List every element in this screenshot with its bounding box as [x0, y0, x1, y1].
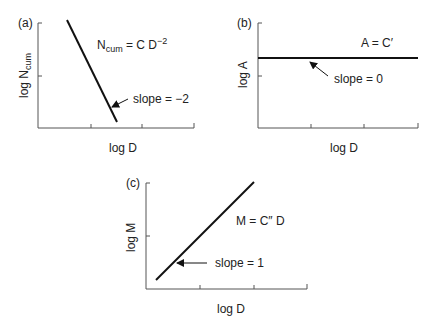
panel-c: (c) log M log D M = C″ D slope = 1	[124, 176, 307, 316]
panel-b-annotation: slope = 0	[334, 72, 383, 86]
panel-c-label: (c)	[126, 176, 140, 190]
panel-b-equation: A = C′	[361, 36, 394, 50]
panel-b-ylabel: log A	[236, 61, 250, 88]
panel-a-equation: Ncum = C D−2	[97, 36, 167, 54]
figure-canvas: (a) log Ncum log D Ncum = C D−2 slope = …	[0, 0, 434, 327]
panel-a-annotation: slope = −2	[133, 92, 189, 106]
panel-b-label: (b)	[237, 16, 252, 30]
panel-b-arrow-icon	[310, 62, 328, 76]
panel-a-line	[67, 20, 117, 122]
panel-a-xlabel: log D	[109, 141, 137, 155]
panel-a: (a) log Ncum log D Ncum = C D−2 slope = …	[17, 16, 194, 155]
panel-c-ylabel: log M	[124, 223, 138, 252]
panel-a-axes	[38, 23, 194, 128]
panel-a-arrow-icon	[112, 99, 128, 107]
panel-c-annotation: slope = 1	[215, 256, 264, 270]
panel-a-label: (a)	[18, 16, 33, 30]
panel-a-ylabel: log Ncum	[17, 53, 33, 98]
panel-c-equation: M = C″ D	[236, 214, 285, 228]
panel-c-axes	[146, 183, 307, 289]
panel-c-xlabel: log D	[217, 302, 245, 316]
panel-b: (b) log A log D A = C′ slope = 0	[236, 16, 418, 155]
panel-b-xlabel: log D	[330, 141, 358, 155]
